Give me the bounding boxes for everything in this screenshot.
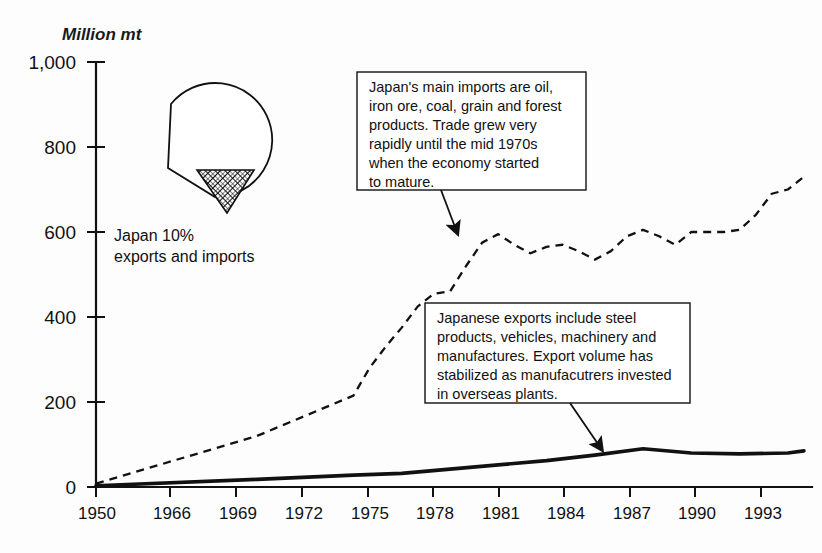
x-tick-label-1993: 1993 [744,504,782,523]
pie-label-line-2: exports and imports [114,248,255,265]
y-tick-label-0: 0 [65,477,76,498]
exports-note-arrow [570,403,598,444]
imports-note-arrow [441,190,455,227]
imports-note-line-4: rapidly until the mid 1970s [369,136,537,152]
exports-note-line-3: manufactures. Export volume has [437,348,653,364]
trade-volume-chart: Million mt 1,000 800 600 400 200 0 [0,0,822,553]
pie-label-line-1: Japan 10% [114,227,194,244]
x-tick-label-1984: 1984 [547,504,585,523]
y-tick-label-400: 400 [44,307,76,328]
series-line-exports [96,449,804,486]
x-tick-label-1966: 1966 [153,504,191,523]
x-tick-label-1987: 1987 [613,504,651,523]
chart-page: Million mt 1,000 800 600 400 200 0 [0,0,822,553]
x-tick-label-1990: 1990 [678,504,716,523]
imports-note-line-3: products. Trade grew very [369,117,537,133]
y-tick-label-200: 200 [44,392,76,413]
pie-chart-inset: Japan 10% exports and imports [114,83,272,265]
imports-note-line-1: Japan's main imports are oil, [369,79,553,95]
x-tick-label-1975: 1975 [351,504,389,523]
y-axis-title: Million mt [62,25,143,44]
x-tick-label-1972: 1972 [285,504,323,523]
x-tick-label-1978: 1978 [416,504,454,523]
imports-note-line-6: to mature. [369,174,434,190]
y-tick-label-1000: 1,000 [28,52,76,73]
imports-note-line-2: iron ore, coal, grain and forest [369,98,562,114]
y-tick-label-800: 800 [44,137,76,158]
x-tick-label-1950: 1950 [78,504,116,523]
exports-note-line-4: stabilized as manufacutrers invested [437,367,672,383]
exports-note-line-1: Japanese exports include steel [437,310,636,326]
annotation-imports-note: Japan's main imports are oil, iron ore, … [357,72,586,227]
exports-note-line-2: products, vehicles, machinery and [437,329,656,345]
annotation-exports-note: Japanese exports include steel products,… [425,303,690,444]
x-tick-label-1981: 1981 [482,504,520,523]
x-tick-label-1969: 1969 [219,504,257,523]
imports-note-line-5: when the economy started [368,155,539,171]
exports-note-line-5: in overseas plants. [437,386,558,402]
y-tick-label-600: 600 [44,222,76,243]
x-axis-ticks [96,487,761,497]
